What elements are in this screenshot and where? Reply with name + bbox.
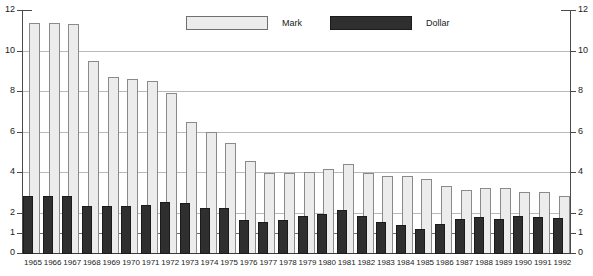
bar-dollar-1986 bbox=[435, 224, 445, 254]
bar-group bbox=[180, 10, 200, 254]
bar-group bbox=[121, 10, 141, 254]
bar-group bbox=[298, 10, 318, 254]
bar-dollar-1965 bbox=[23, 196, 33, 254]
bar-dollar-1973 bbox=[180, 203, 190, 254]
bar-group bbox=[396, 10, 416, 254]
bar-group bbox=[513, 10, 533, 254]
bar-group bbox=[455, 10, 475, 254]
y-label-left-4: 4 bbox=[0, 167, 15, 176]
bar-group bbox=[160, 10, 180, 254]
bar-dollar-1977 bbox=[258, 222, 268, 254]
bar-dollar-1975 bbox=[219, 208, 229, 254]
bar-dollar-1991 bbox=[533, 217, 543, 254]
y-label-right-1: 1 bbox=[578, 228, 593, 237]
bar-dollar-1989 bbox=[494, 219, 504, 254]
bar-group bbox=[62, 10, 82, 254]
bar-group bbox=[337, 10, 357, 254]
y-label-left-2: 2 bbox=[0, 208, 15, 217]
bar-group bbox=[415, 10, 435, 254]
bar-dollar-1988 bbox=[474, 217, 484, 254]
y-label-left-1: 1 bbox=[0, 228, 15, 237]
bar-dollar-1987 bbox=[455, 219, 465, 254]
y-label-left-10: 10 bbox=[0, 46, 15, 55]
y-axis-right-line bbox=[570, 10, 571, 254]
y-label-right-0: 0 bbox=[578, 248, 593, 257]
y-label-right-12: 12 bbox=[578, 5, 593, 14]
bar-group bbox=[376, 10, 396, 254]
bar-group bbox=[258, 10, 278, 254]
bar-group bbox=[43, 10, 63, 254]
bar-group bbox=[494, 10, 514, 254]
bar-dollar-1968 bbox=[82, 206, 92, 254]
bar-dollar-1985 bbox=[415, 229, 425, 254]
bar-dollar-1974 bbox=[200, 208, 210, 254]
bar-group bbox=[474, 10, 494, 254]
bar-group bbox=[533, 10, 553, 254]
bar-group bbox=[278, 10, 298, 254]
chart-plot-bars bbox=[22, 10, 571, 254]
bar-dollar-1981 bbox=[337, 210, 347, 254]
y-label-right-4: 4 bbox=[578, 167, 593, 176]
bar-dollar-1983 bbox=[376, 222, 386, 254]
y-label-left-8: 8 bbox=[0, 86, 15, 95]
bar-group bbox=[219, 10, 239, 254]
bar-dollar-1970 bbox=[121, 206, 131, 254]
x-label-1992: 1992 bbox=[550, 258, 574, 267]
bar-group bbox=[435, 10, 455, 254]
bar-group bbox=[317, 10, 337, 254]
y-label-left-12: 12 bbox=[0, 5, 15, 14]
bar-dollar-1976 bbox=[239, 220, 249, 254]
y-label-right-8: 8 bbox=[578, 86, 593, 95]
y-label-left-6: 6 bbox=[0, 127, 15, 136]
bar-group bbox=[239, 10, 259, 254]
bar-chart: Mark Dollar 00112244668810101212 1965196… bbox=[0, 0, 593, 276]
bar-dollar-1966 bbox=[43, 196, 53, 254]
bar-dollar-1972 bbox=[160, 202, 170, 254]
bar-group bbox=[141, 10, 161, 254]
bar-dollar-1967 bbox=[62, 196, 72, 254]
y-label-right-10: 10 bbox=[578, 46, 593, 55]
y-axis-right-top-tick bbox=[561, 10, 571, 11]
bar-group bbox=[23, 10, 43, 254]
bar-group bbox=[357, 10, 377, 254]
bar-dollar-1990 bbox=[513, 216, 523, 254]
y-label-right-2: 2 bbox=[578, 208, 593, 217]
bar-dollar-1979 bbox=[298, 216, 308, 254]
bar-dollar-1982 bbox=[357, 216, 367, 254]
bar-dollar-1971 bbox=[141, 205, 151, 254]
bar-group bbox=[102, 10, 122, 254]
bar-group bbox=[200, 10, 220, 254]
bar-dollar-1978 bbox=[278, 220, 288, 254]
y-axis-left-top-tick bbox=[22, 10, 32, 11]
y-label-right-6: 6 bbox=[578, 127, 593, 136]
bar-group bbox=[82, 10, 102, 254]
bar-dollar-1980 bbox=[317, 214, 327, 255]
y-label-left-0: 0 bbox=[0, 248, 15, 257]
bar-dollar-1969 bbox=[102, 206, 112, 254]
bar-dollar-1992 bbox=[553, 218, 563, 254]
bar-dollar-1984 bbox=[396, 225, 406, 254]
